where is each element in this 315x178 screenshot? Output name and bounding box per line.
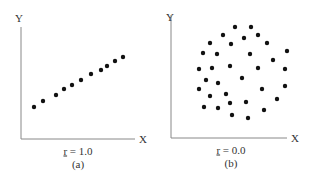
data-point xyxy=(262,108,266,112)
data-point xyxy=(216,106,220,110)
data-point xyxy=(228,64,232,68)
y-axis-label-a: Y xyxy=(15,13,23,24)
data-point xyxy=(248,52,252,56)
data-point xyxy=(260,87,264,91)
data-point xyxy=(89,72,93,76)
y-axis-label-b: Y xyxy=(166,12,174,23)
data-point xyxy=(99,68,103,72)
x-axis-label-a: X xyxy=(139,134,147,145)
data-point xyxy=(197,87,201,91)
data-point xyxy=(216,81,220,85)
data-point xyxy=(204,78,208,82)
data-point xyxy=(201,51,205,55)
data-point xyxy=(285,49,289,53)
data-point xyxy=(215,52,219,56)
data-point xyxy=(208,41,212,45)
scatter-plots xyxy=(0,0,315,178)
panel-label-a: (a) xyxy=(72,159,84,170)
data-point xyxy=(113,59,117,63)
caption-b: r = 0.0 xyxy=(216,145,245,156)
data-point xyxy=(240,76,244,80)
data-point xyxy=(246,116,250,120)
r-value-b: = 0.0 xyxy=(220,144,245,156)
data-point xyxy=(208,94,212,98)
data-point xyxy=(233,25,237,29)
data-point xyxy=(224,92,228,96)
data-point xyxy=(256,33,260,37)
data-point xyxy=(275,97,279,101)
data-point xyxy=(41,99,45,103)
panel-label-b: (b) xyxy=(225,158,238,169)
data-point xyxy=(271,58,275,62)
data-point xyxy=(244,100,248,104)
x-axis-label-b: X xyxy=(291,133,299,144)
data-point xyxy=(79,78,83,82)
axes-a xyxy=(21,27,135,139)
data-point xyxy=(249,25,253,29)
data-point xyxy=(210,66,214,70)
data-point xyxy=(70,83,74,87)
data-point xyxy=(62,87,66,91)
r-value-a: = 1.0 xyxy=(67,145,92,157)
data-point xyxy=(202,105,206,109)
data-point xyxy=(256,66,260,70)
data-point xyxy=(121,55,125,59)
data-point xyxy=(105,64,109,68)
data-point xyxy=(32,105,36,109)
caption-a: r = 1.0 xyxy=(63,146,92,157)
dots-b xyxy=(197,25,289,120)
data-point xyxy=(197,67,201,71)
data-point xyxy=(228,101,232,105)
data-point xyxy=(230,113,234,117)
data-point xyxy=(54,93,58,97)
data-point xyxy=(242,36,246,40)
dots-a xyxy=(32,55,125,109)
data-point xyxy=(265,41,269,45)
data-point xyxy=(221,33,225,37)
axes-b xyxy=(171,15,287,138)
data-point xyxy=(283,67,287,71)
data-point xyxy=(283,84,287,88)
data-point xyxy=(229,42,233,46)
